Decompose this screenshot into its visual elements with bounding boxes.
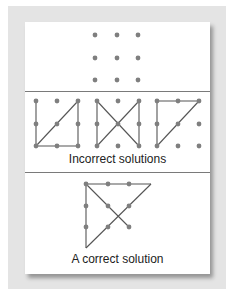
dot <box>127 182 132 187</box>
puzzle-grid <box>93 33 141 83</box>
dot <box>137 99 142 104</box>
dot <box>76 144 81 149</box>
dot <box>55 144 60 149</box>
dot <box>84 204 89 209</box>
nine-dot-diagrams <box>0 0 234 295</box>
dot <box>137 144 142 149</box>
dot <box>116 144 121 149</box>
dot <box>155 122 160 127</box>
dot <box>34 144 39 149</box>
dot <box>115 78 120 83</box>
dot <box>95 144 100 149</box>
dot <box>76 99 81 104</box>
incorrect-solution-1 <box>34 99 81 149</box>
dot <box>155 99 160 104</box>
dot <box>127 225 132 230</box>
dot <box>176 144 181 149</box>
dot <box>34 122 39 127</box>
dot <box>115 33 120 38</box>
dot <box>106 182 111 187</box>
dot <box>176 122 181 127</box>
dot <box>115 56 120 61</box>
dot <box>84 225 89 230</box>
dot <box>155 144 160 149</box>
dot <box>136 78 141 83</box>
incorrect-solutions-label: Incorrect solutions <box>25 152 210 166</box>
dot <box>93 78 98 83</box>
dot <box>84 182 89 187</box>
dot <box>76 122 81 127</box>
dot <box>176 99 181 104</box>
dot <box>116 122 121 127</box>
dot <box>93 33 98 38</box>
dot <box>106 204 111 209</box>
dot <box>55 99 60 104</box>
dot <box>136 56 141 61</box>
dot <box>95 122 100 127</box>
correct-solution-label: A correct solution <box>25 252 210 266</box>
dot <box>95 99 100 104</box>
dot <box>197 144 202 149</box>
dot <box>136 33 141 38</box>
dot <box>106 225 111 230</box>
dot <box>197 122 202 127</box>
correct-solution <box>84 182 151 248</box>
dot <box>116 99 121 104</box>
dot <box>127 204 132 209</box>
dot <box>93 56 98 61</box>
dot <box>197 99 202 104</box>
incorrect-solution-2 <box>95 99 142 149</box>
dot <box>137 122 142 127</box>
dot <box>55 122 60 127</box>
dot <box>34 99 39 104</box>
incorrect-solution-3 <box>155 99 202 149</box>
